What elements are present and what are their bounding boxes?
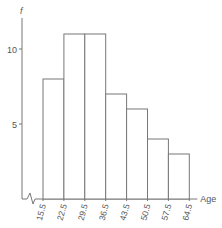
histogram-bar <box>168 154 189 199</box>
histogram-bar <box>64 34 85 199</box>
histogram-bar <box>148 139 169 199</box>
histogram-chart: f510Age15.522.529.536.543.550.557.564.5 <box>0 0 222 228</box>
histogram-bar <box>85 34 106 199</box>
x-axis-label: Age <box>200 194 216 204</box>
x-tick-label: 29.5 <box>76 203 90 222</box>
y-axis-label: f <box>20 6 24 16</box>
x-tick-label: 22.5 <box>55 203 69 222</box>
y-tick-label: 5 <box>12 120 17 130</box>
x-tick-label: 57.5 <box>159 203 173 222</box>
x-tick-label: 36.5 <box>97 203 111 222</box>
x-tick-label: 50.5 <box>138 203 152 222</box>
histogram-bar <box>127 109 148 199</box>
x-tick-label: 64.5 <box>180 203 194 222</box>
x-tick-label: 15.5 <box>34 203 48 222</box>
y-tick-label: 10 <box>7 45 17 55</box>
histogram-bar <box>106 94 127 199</box>
x-tick-label: 43.5 <box>118 203 132 222</box>
histogram-bar <box>43 79 64 199</box>
